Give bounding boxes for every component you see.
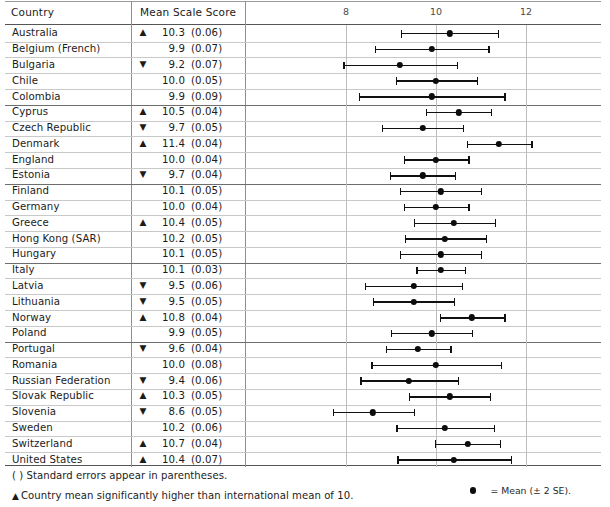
- footnote-parentheses: ( ) Standard errors appear in parenthese…: [12, 470, 442, 481]
- mean-scale-score-value: 10.0: [153, 201, 185, 212]
- scatter-plot-area: [246, 25, 601, 467]
- mean-marker-dot: [419, 172, 425, 178]
- country-name: Germany: [12, 201, 60, 212]
- mean-marker-dot: [446, 30, 452, 36]
- mean-scale-score-value: 9.4: [153, 375, 185, 386]
- error-bar-cap-lower: [426, 109, 427, 117]
- mean-marker-dot: [437, 267, 443, 273]
- error-bar-cap-upper: [481, 251, 482, 259]
- error-bar-cap-upper: [501, 362, 502, 370]
- mean-marker-dot: [437, 251, 443, 257]
- standard-error-value: (0.05): [191, 122, 237, 133]
- country-name: England: [12, 154, 54, 165]
- error-bar-cap-upper: [458, 377, 459, 385]
- standard-error-value: (0.05): [191, 390, 237, 401]
- error-bar-cap-lower: [396, 77, 397, 85]
- data-point-row: [246, 451, 601, 469]
- mean-scale-score-value: 10.3: [153, 390, 185, 401]
- mean-scale-score-value: 10.2: [153, 233, 185, 244]
- standard-error-value: (0.04): [191, 154, 237, 165]
- mean-marker-dot: [442, 236, 448, 242]
- error-bar-cap-lower: [343, 62, 344, 70]
- mean-scale-score-value: 10.0: [153, 154, 185, 165]
- country-name: Cyprus: [12, 106, 48, 117]
- standard-error-value: (0.06): [191, 280, 237, 291]
- error-bar-cap-upper: [486, 235, 487, 243]
- error-bar-cap-upper: [477, 77, 478, 85]
- error-bar-cap-lower: [401, 30, 402, 38]
- error-bar-cap-upper: [457, 62, 458, 70]
- error-bar-cap-upper: [414, 409, 415, 417]
- mean-marker-dot: [464, 441, 470, 447]
- country-name: Russian Federation: [12, 375, 111, 386]
- standard-error-value: (0.09): [191, 91, 237, 102]
- down-triangle-icon: ▼: [136, 123, 150, 132]
- error-bar-cap-upper: [468, 204, 469, 212]
- error-bar-cap-lower: [359, 93, 360, 101]
- mean-marker-dot: [433, 78, 439, 84]
- country-name: Switzerland: [12, 438, 73, 449]
- country-name: Sweden: [12, 422, 53, 433]
- error-bar-cap-upper: [504, 93, 505, 101]
- error-bar-cap-lower: [390, 172, 391, 180]
- country-name: Italy: [12, 264, 35, 275]
- mean-marker-dot: [433, 157, 439, 163]
- country-name: Slovak Republic: [12, 390, 94, 401]
- up-triangle-icon: ▲: [136, 313, 150, 322]
- mean-scale-score-value: 10.1: [153, 185, 185, 196]
- error-bar-cap-lower: [405, 235, 406, 243]
- standard-error-value: (0.04): [191, 343, 237, 354]
- mean-marker-dot: [406, 378, 412, 384]
- mean-marker-dot: [370, 409, 376, 415]
- mean-marker-dot: [410, 299, 416, 305]
- error-bar-cap-lower: [333, 409, 334, 417]
- error-bar-cap-lower: [375, 46, 376, 54]
- up-triangle-icon: ▲: [136, 439, 150, 448]
- mean-marker-dot: [428, 93, 434, 99]
- error-bar-cap-upper: [463, 125, 464, 133]
- standard-error-value: (0.05): [191, 217, 237, 228]
- error-bar-cap-upper: [472, 330, 473, 338]
- error-bar-cap-upper: [504, 314, 505, 322]
- country-name: Portugal: [12, 343, 55, 354]
- country-name: Hungary: [12, 248, 56, 259]
- standard-error-value: (0.05): [191, 75, 237, 86]
- mean-scale-score-value: 10.7: [153, 438, 185, 449]
- column-header-country: Country: [11, 6, 54, 18]
- down-triangle-icon: ▼: [136, 297, 150, 306]
- error-bar-cap-lower: [382, 125, 383, 133]
- mean-marker-dot: [451, 457, 457, 463]
- up-triangle-icon: ▲: [136, 107, 150, 116]
- up-triangle-icon: ▲: [136, 139, 150, 148]
- error-bar-cap-upper: [494, 425, 495, 433]
- error-bar-cap-lower: [467, 141, 468, 149]
- mean-marker-dot: [419, 125, 425, 131]
- mean-scale-score-value: 9.2: [153, 59, 185, 70]
- down-triangle-icon: ▼: [136, 170, 150, 179]
- error-bar-cap-upper: [531, 141, 532, 149]
- mean-scale-score-value: 10.3: [153, 27, 185, 38]
- error-bar-cap-lower: [400, 251, 401, 259]
- up-triangle-icon: ▲: [12, 491, 19, 501]
- mean-scale-score-value: 9.7: [153, 169, 185, 180]
- country-name: Belgium (French): [12, 43, 100, 54]
- down-triangle-icon: ▼: [136, 344, 150, 353]
- standard-error-value: (0.05): [191, 248, 237, 259]
- mean-marker-dot: [428, 330, 434, 336]
- legend-label: = Mean (± 2 SE).: [490, 485, 571, 496]
- column-header-mean-scale-score: Mean Scale Score: [140, 6, 236, 18]
- country-name: Hong Kong (SAR): [12, 233, 101, 244]
- mean-scale-score-value: 9.9: [153, 91, 185, 102]
- mean-scale-score-value: 9.5: [153, 280, 185, 291]
- mean-marker-dot: [433, 362, 439, 368]
- standard-error-value: (0.03): [191, 264, 237, 275]
- standard-error-value: (0.07): [191, 454, 237, 465]
- error-bar-cap-lower: [386, 346, 387, 354]
- filled-circle-icon: [470, 487, 476, 493]
- country-name: Australia: [12, 27, 58, 38]
- up-triangle-icon: ▲: [136, 28, 150, 37]
- error-bar-cap-lower: [404, 156, 405, 164]
- mean-scale-score-value: 10.4: [153, 217, 185, 228]
- error-bar-cap-lower: [396, 425, 397, 433]
- error-bar-cap-lower: [414, 219, 415, 227]
